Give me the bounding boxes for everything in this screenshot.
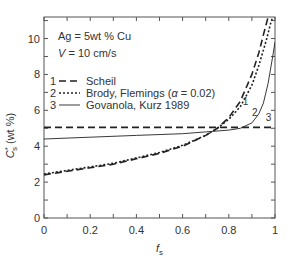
y-tick-label: 10 (28, 33, 40, 45)
y-tick-label: 2 (34, 176, 40, 188)
y-tick-label: 8 (34, 68, 40, 80)
line-chart: 00.20.40.60.810246810fsC*s (wt %)123Ag =… (0, 0, 290, 260)
x-tick-label: 0.2 (83, 224, 98, 236)
x-axis-label: fs (156, 242, 163, 257)
y-tick-label: 4 (34, 140, 40, 152)
legend-label: Scheil (86, 75, 116, 87)
chart-container: 00.20.40.60.810246810fsC*s (wt %)123Ag =… (0, 0, 290, 260)
y-tick-label: 6 (34, 104, 40, 116)
y-axis-label: C*s (wt %) (3, 113, 19, 158)
legend-number: 2 (50, 87, 56, 99)
legend-label: Govanola, Kurz 1989 (86, 99, 189, 111)
legend-number: 3 (50, 99, 56, 111)
legend-number: 1 (50, 75, 56, 87)
x-tick-label: 0.6 (175, 224, 190, 236)
x-tick-label: 0 (41, 224, 47, 236)
x-tick-label: 1 (272, 224, 278, 236)
y-tick-label: 0 (34, 212, 40, 224)
curve-label: 3 (266, 112, 272, 123)
legend-label: Brody, Flemings (α = 0.02) (86, 87, 215, 99)
curve-label: 2 (252, 107, 258, 118)
x-tick-label: 0.8 (221, 224, 236, 236)
curve-label: 1 (243, 96, 249, 107)
annotation-velocity: V = 10 cm/s (58, 47, 117, 59)
x-tick-label: 0.4 (129, 224, 144, 236)
annotation-alloy: Ag = 5wt % Cu (58, 30, 131, 42)
